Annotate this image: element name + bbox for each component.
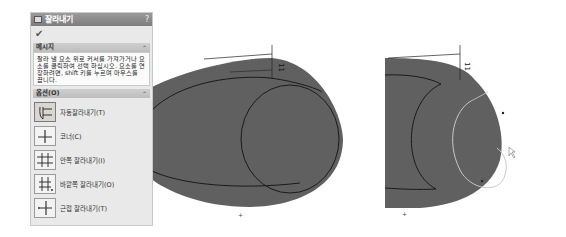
option-trim-inside[interactable]: 안쪽 잘라내기(I): [34, 149, 150, 170]
message-section-label: 메시지: [36, 43, 142, 52]
trim-closest-icon[interactable]: [34, 198, 56, 218]
mouse-cursor-icon: [509, 147, 515, 158]
panel-title: 잘라내기: [45, 13, 142, 26]
options-section-label: 옵션(O): [36, 89, 142, 98]
help-button[interactable]: ?: [142, 13, 152, 26]
option-trim-outside[interactable]: 바깥쪽 잘라내기(O): [34, 173, 150, 194]
collapse-icon[interactable]: ⌃: [142, 89, 150, 98]
corner-trim-icon[interactable]: [34, 126, 56, 146]
message-section-header[interactable]: 메시지 ⌃: [33, 43, 150, 52]
collapse-icon[interactable]: ⌃: [142, 43, 150, 52]
trim-outside-icon[interactable]: [34, 174, 56, 194]
dimension-label[interactable]: 11: [463, 62, 471, 71]
message-text: 잘라 낼 요소 위로 커서를 가져가거나 요소를 클릭하여 선택 하십시오. 요…: [33, 52, 150, 86]
trim-tool-icon: [34, 16, 42, 23]
svg-text:+: +: [238, 211, 243, 218]
options-section-header[interactable]: 옵션(O) ⌃: [33, 89, 150, 98]
option-corner[interactable]: 코너(C): [34, 125, 150, 146]
dimension-label[interactable]: 11: [277, 63, 285, 72]
ok-checkmark-button[interactable]: ✔: [35, 28, 43, 39]
trim-property-manager: 잘라내기 ? ✔ 메시지 ⌃ 잘라 낼 요소 위로 커서를 가져가거나 요소를 …: [30, 12, 153, 226]
trim-inside-icon[interactable]: [34, 150, 56, 170]
sketch-before-trim: 11 +: [150, 45, 343, 218]
power-trim-icon[interactable]: [34, 102, 56, 122]
svg-text:+: +: [402, 210, 407, 217]
option-trim-closest[interactable]: 근접 잘라내기(T): [34, 197, 150, 218]
panel-titlebar: 잘라내기 ?: [31, 13, 152, 26]
sketch-after-trim: 11 +: [385, 45, 515, 217]
option-power-trim[interactable]: 자동잘라내기(T): [34, 101, 150, 122]
